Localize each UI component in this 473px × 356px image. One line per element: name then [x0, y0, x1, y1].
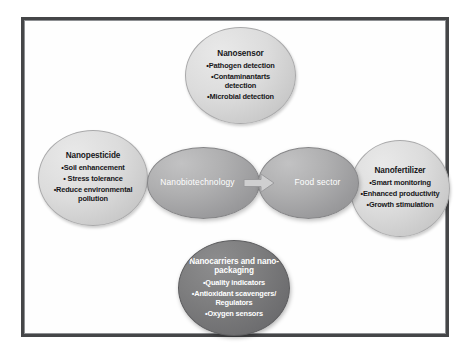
node-nanopesticide-item-1: •Soil enhancement [61, 164, 124, 173]
node-nanosensor-item-3: •Microbial detection [207, 93, 274, 102]
node-nanocarriers-item-3: •Oxygen sensors [205, 310, 263, 319]
node-nanofertilizer-item-2: •Enhanced productivity [361, 190, 440, 199]
node-nanofertilizer-title: Nanofertilizer [375, 166, 426, 176]
diagram-canvas: Nanosensor •Pathogen detection •Contamin… [0, 0, 473, 356]
node-nanosensor[interactable]: Nanosensor •Pathogen detection •Contamin… [185, 27, 296, 124]
node-nanobiotechnology-label: Nanobiotechnology [160, 178, 234, 188]
node-food-sector-label: Food sector [295, 178, 341, 188]
right-arrow-icon [243, 173, 275, 193]
node-nanosensor-item-2: •Contaminantarts detection [211, 73, 270, 90]
node-nanocarriers-item-2: •Antioxidant scavengers/ Regulators [192, 290, 276, 307]
node-nanofertilizer-item-1: •Smart monitoring [369, 179, 431, 188]
node-nanopesticide-item-3: •Reduce environmental pollution [54, 186, 133, 203]
node-nanopesticide-title: Nanopesticide [66, 151, 121, 161]
node-nanofertilizer[interactable]: Nanofertilizer •Smart monitoring •Enhanc… [350, 140, 450, 237]
node-nanopesticide[interactable]: Nanopesticide •Soil enhancement • Stress… [38, 130, 148, 226]
node-nanosensor-title: Nanosensor [217, 49, 263, 59]
node-nanocarriers-item-1: •Quality indicators [203, 279, 265, 288]
node-nanopesticide-item-2: • Stress tolerance [63, 175, 122, 184]
node-nanocarriers-title: Nanocarriers and nano- packaging [189, 257, 279, 276]
node-nanosensor-item-1: •Pathogen detection [206, 62, 274, 71]
node-nanofertilizer-item-3: •Growth stimulation [366, 201, 433, 210]
node-nanocarriers[interactable]: Nanocarriers and nano- packaging •Qualit… [178, 240, 290, 336]
